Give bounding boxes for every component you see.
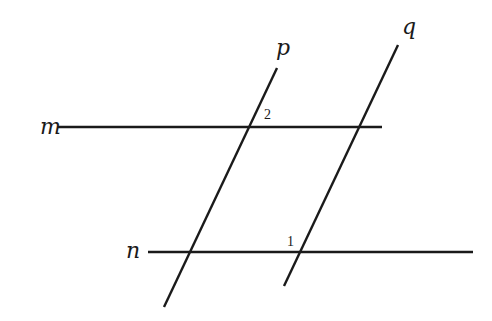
line-p <box>164 68 277 307</box>
line-labels: m n p q <box>40 14 416 263</box>
label-p: p <box>276 35 290 60</box>
label-n: n <box>126 238 140 263</box>
label-q: q <box>402 14 416 39</box>
angle-1-label: 1 <box>287 234 294 249</box>
line-q <box>284 45 398 286</box>
angle-2-label: 2 <box>264 107 271 122</box>
geometry-diagram: m n p q 2 1 <box>0 0 492 321</box>
angle-labels: 2 1 <box>264 107 294 249</box>
lines-group <box>58 45 473 307</box>
label-m: m <box>40 114 61 139</box>
